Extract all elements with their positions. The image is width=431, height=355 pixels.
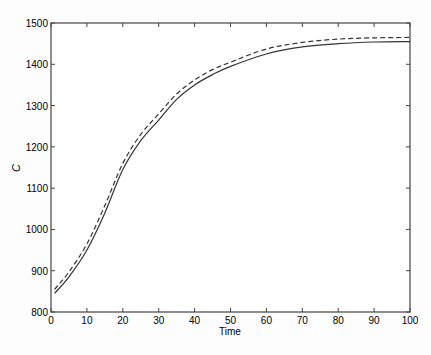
y-tick-label: 1500 xyxy=(26,18,49,29)
y-tick-label: 900 xyxy=(31,266,48,277)
x-tick-label: 60 xyxy=(261,315,273,326)
x-tick-label: 50 xyxy=(225,315,237,326)
x-tick-label: 90 xyxy=(369,315,381,326)
x-tick-label: 20 xyxy=(117,315,129,326)
y-tick-label: 1400 xyxy=(26,59,49,70)
x-tick-label: 30 xyxy=(153,315,165,326)
x-axis-label: Time xyxy=(219,326,241,337)
y-tick-label: 1300 xyxy=(26,101,49,112)
y-tick-label: 1100 xyxy=(26,183,48,194)
y-tick-label: 800 xyxy=(31,307,48,318)
y-tick-label: 1000 xyxy=(26,224,49,235)
y-tick-label: 1200 xyxy=(26,142,49,153)
line-chart: 0102030405060708090100 80090010001100120… xyxy=(0,0,431,355)
x-tick-label: 40 xyxy=(189,315,201,326)
x-tick-label: 10 xyxy=(81,315,93,326)
x-tick-label: 100 xyxy=(402,315,419,326)
x-tick-label: 0 xyxy=(48,315,54,326)
x-tick-label: 70 xyxy=(297,315,309,326)
y-axis-label: C xyxy=(10,164,22,172)
x-tick-label: 80 xyxy=(333,315,345,326)
